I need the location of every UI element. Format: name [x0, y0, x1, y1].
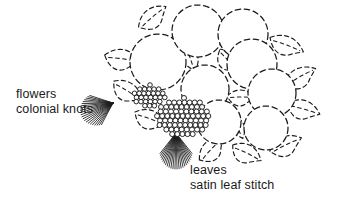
colonial-knot-dot	[147, 103, 152, 108]
colonial-knot-dot	[180, 132, 185, 137]
colonial-knot-dot	[185, 132, 190, 137]
leaves-annotation: leaves satin leaf stitch	[190, 163, 274, 192]
colonial-knot-dot	[134, 99, 139, 104]
leaf-shape	[133, 1, 172, 36]
leaf-vein	[274, 38, 300, 54]
large-knot-cluster	[155, 96, 211, 137]
colonial-knot-dot	[157, 123, 162, 128]
colonial-knot-dot	[175, 132, 180, 137]
leaf-vein	[141, 9, 165, 26]
flowers-label-line2: colonial knots	[16, 102, 93, 117]
flower-circle	[244, 106, 288, 150]
colonial-knot-dot	[152, 103, 157, 108]
colonial-knot-dot	[162, 95, 167, 100]
colonial-knot-dot	[143, 103, 148, 108]
stitch-diagram-page: flowers colonial knots leaves satin leaf…	[0, 0, 343, 199]
colonial-knot-dot	[158, 99, 163, 104]
leaves-label-line2: satin leaf stitch	[190, 178, 274, 193]
colonial-knot-dot	[155, 114, 160, 119]
colonial-knot-dot	[203, 123, 208, 128]
colonial-knot-dot	[200, 127, 205, 132]
colonial-knot-dot	[195, 127, 200, 132]
colonial-knot-dot	[139, 99, 144, 104]
bottom-satin-fan	[160, 133, 192, 169]
colonial-knot-dot	[170, 132, 175, 137]
flowers-annotation: flowers colonial knots	[16, 87, 93, 116]
leaves-label-line1: leaves	[190, 163, 274, 178]
leaf-outline	[133, 1, 172, 36]
colonial-knot-dot	[190, 132, 195, 137]
flowers-label-line1: flowers	[16, 87, 93, 102]
colonial-knot-dot	[164, 127, 169, 132]
flower-circle	[172, 5, 224, 57]
